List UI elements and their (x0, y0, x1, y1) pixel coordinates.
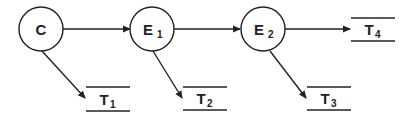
state-diagram: C E 1 E 2 T 1 T 2 T 3 T 4 (0, 0, 414, 121)
svg-text:4: 4 (375, 29, 381, 40)
terminal-t4-sub: 4 (375, 29, 381, 40)
svg-text:T: T (99, 91, 108, 108)
node-e2-label: E (254, 21, 264, 38)
svg-text:E: E (143, 21, 153, 38)
terminal-t3-sub: 3 (331, 98, 337, 109)
svg-text:T: T (320, 90, 329, 107)
node-c: C (19, 7, 63, 51)
svg-text:2: 2 (268, 29, 274, 40)
edge-e2-t3 (270, 51, 306, 98)
svg-text:3: 3 (331, 98, 337, 109)
node-e2-sub: 2 (268, 29, 274, 40)
terminal-t2-label: T (196, 90, 205, 107)
terminal-t1: T 1 (86, 87, 130, 111)
terminal-t3: T 3 (307, 87, 351, 110)
terminal-t1-sub: 1 (110, 99, 116, 110)
svg-text:E: E (254, 21, 264, 38)
terminal-t4: T 4 (351, 18, 395, 41)
terminal-t2-sub: 2 (207, 98, 213, 109)
node-e1: E 1 (130, 7, 174, 51)
node-c-label: C (36, 21, 47, 38)
edge-e1-t2 (153, 51, 182, 98)
terminal-t1-label: T (99, 91, 108, 108)
node-e2: E 2 (241, 7, 285, 51)
svg-text:T: T (364, 21, 373, 38)
svg-text:2: 2 (207, 98, 213, 109)
node-e1-label: E (143, 21, 153, 38)
node-e1-sub: 1 (157, 29, 163, 40)
terminal-t4-label: T (364, 21, 373, 38)
terminal-t3-label: T (320, 90, 329, 107)
terminal-t2: T 2 (183, 87, 227, 110)
svg-text:T: T (196, 90, 205, 107)
svg-text:1: 1 (110, 99, 116, 110)
svg-text:C: C (36, 21, 47, 38)
svg-text:1: 1 (157, 29, 163, 40)
edge-c-t1 (42, 51, 85, 98)
